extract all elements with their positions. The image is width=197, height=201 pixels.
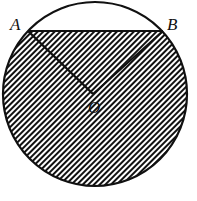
- label-b: B: [167, 15, 178, 34]
- circle-diagram: A B O: [0, 0, 197, 201]
- label-a: A: [9, 15, 21, 34]
- label-o: O: [88, 98, 100, 117]
